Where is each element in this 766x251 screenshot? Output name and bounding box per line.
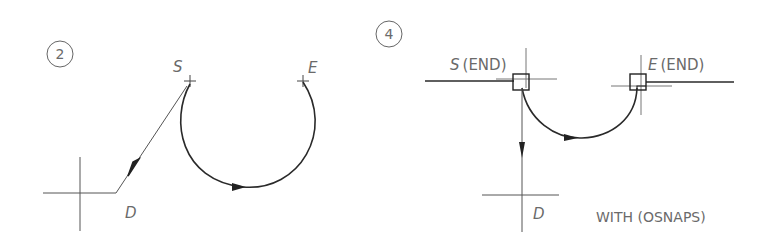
end-label-snap: E(END) [648,56,704,74]
panel-2-number-badge: 2 [47,41,73,67]
panel-number: 4 [385,26,394,42]
direction-line [116,86,187,193]
arc-direction-arrow [564,134,578,141]
start-label-snap: S(END) [450,56,506,74]
arc-direction-arrow [232,183,246,191]
caption: WITH (OSNAPS) [596,209,706,225]
start-label: S [173,58,183,76]
panel-4-number-badge: 4 [376,21,402,47]
panel-number: 2 [56,46,65,62]
direction-arrow [128,159,139,176]
crosshair-cursor-icon [43,157,116,231]
arc-diagram-canvas: 2 S E D 4 S(E [0,0,766,251]
end-snap-mode: (END) [660,56,704,74]
direction-arrow [519,142,525,158]
arc-path [522,88,637,138]
panel-2: 2 S E D [43,41,318,231]
end-label: E [308,59,318,77]
end-endpoint-snap-marker [630,74,646,90]
panel-4: 4 S(END) E(END) D WITH (OSNAPS) [376,21,734,232]
end-label: E [648,56,658,74]
direction-label: D [125,204,137,222]
start-snap-mode: (END) [463,56,507,74]
arc-path [181,82,315,187]
start-label: S [450,56,460,74]
start-endpoint-snap-marker [513,74,529,90]
direction-label: D [533,205,545,223]
